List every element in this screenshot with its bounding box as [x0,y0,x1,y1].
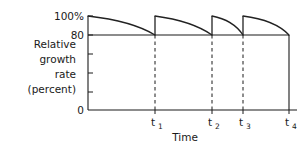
x-tick-label-t3: t 3 [239,116,251,131]
x-tick-label-t2-base: t [208,116,212,128]
y-tick-label-100: 100% [54,10,84,22]
y-axis-label-line-4: (percent) [28,83,76,95]
x-tick-label-t1-base: t [151,116,155,128]
x-tick-label-t1: t 1 [151,116,163,131]
growth-curve-cycle-1 [88,16,155,35]
growth-curve-cycle-3 [212,16,243,35]
y-axis-label-line-3: rate [55,68,76,80]
y-axis-label-line-2: growth [39,53,76,65]
x-tick-label-t1-sub: 1 [158,122,163,131]
x-tick-label-t4: t 4 [285,116,297,131]
chart-canvas: Relative growth rate (percent) 100% 80 0 [0,0,305,146]
growth-rate-chart-figure: Relative growth rate (percent) 100% 80 0 [0,0,305,146]
growth-curve-cycle-4 [243,16,289,35]
x-tick-label-t3-base: t [239,116,243,128]
x-tick-label-t4-sub: 4 [292,122,297,131]
x-axis-title: Time [171,131,198,143]
growth-curve-cycle-2 [155,16,212,35]
x-tick-label-t2: t 2 [208,116,220,131]
x-tick-label-t2-sub: 2 [215,122,220,131]
x-tick-label-t4-base: t [285,116,289,128]
x-tick-label-t3-sub: 3 [246,122,251,131]
y-tick-label-0: 0 [77,104,84,116]
y-tick-label-80: 80 [71,29,84,41]
